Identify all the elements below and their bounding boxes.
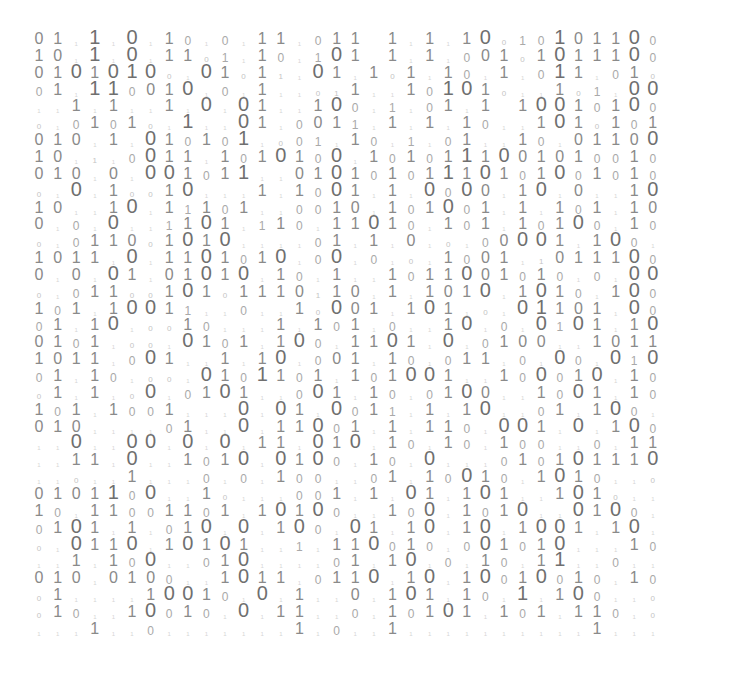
binary-digit: 0	[290, 468, 308, 485]
binary-digit: 0	[346, 199, 364, 216]
binary-digit: 0	[328, 350, 346, 367]
binary-digit: 0	[439, 131, 457, 148]
binary-digit: 0	[104, 114, 122, 131]
binary-digit: 1	[607, 30, 625, 47]
binary-digit: 1	[588, 401, 606, 418]
binary-digit: 0	[197, 519, 215, 536]
binary-digit: 1	[104, 131, 122, 148]
binary-digit: 1	[514, 586, 532, 603]
binary-digit: 0	[309, 451, 327, 468]
binary-digit: 1	[588, 199, 606, 216]
binary-digit: 1	[309, 316, 327, 333]
binary-digit: 1	[197, 485, 215, 502]
binary-digit: 0	[644, 131, 662, 148]
binary-digit: 0	[532, 333, 550, 350]
binary-digit: 0	[514, 148, 532, 165]
binary-digit: 1	[551, 232, 569, 249]
binary-digit: 0	[569, 316, 587, 333]
binary-digit: 1	[49, 165, 67, 182]
binary-digit: 1	[179, 502, 197, 519]
binary-digit: 0	[328, 316, 346, 333]
binary-digit: 1	[625, 384, 643, 401]
binary-digit: 0	[514, 333, 532, 350]
binary-digit: 1	[495, 165, 513, 182]
binary-digit: 1	[49, 316, 67, 333]
binary-digit: 1	[458, 283, 476, 300]
binary-digit: 1	[383, 30, 401, 47]
binary-digit: 1	[607, 131, 625, 148]
binary-digit: 1	[551, 283, 569, 300]
binary-digit: 0	[328, 418, 346, 435]
binary-digit: 1	[495, 64, 513, 81]
binary-digit: 0	[625, 114, 643, 131]
binary-digit: 1	[402, 333, 420, 350]
binary-digit: 0	[588, 367, 606, 384]
binary-digit: 1	[49, 131, 67, 148]
binary-row: 0101011110111101110101101110100110	[30, 215, 706, 232]
binary-digit: 1	[365, 232, 383, 249]
binary-digit: 1	[104, 232, 122, 249]
binary-digit: 1	[290, 586, 308, 603]
binary-digit: 1	[197, 283, 215, 300]
binary-digit: 0	[532, 434, 550, 451]
binary-digit: 0	[142, 165, 160, 182]
binary-digit: 1	[346, 131, 364, 148]
binary-digit: 0	[309, 114, 327, 131]
binary-digit: 1	[495, 249, 513, 266]
binary-digit: 1	[253, 249, 271, 266]
binary-digit: 1	[458, 401, 476, 418]
binary-digit: 0	[644, 316, 662, 333]
binary-digit: 0	[272, 502, 290, 519]
binary-digit: 1	[49, 367, 67, 384]
binary-digit: 1	[607, 519, 625, 536]
binary-digit: 1	[476, 81, 494, 98]
binary-digit: 1	[495, 603, 513, 620]
binary-digit: 1	[458, 350, 476, 367]
binary-digit: 0	[365, 165, 383, 182]
binary-digit: 0	[235, 300, 253, 317]
binary-digit: 0	[421, 148, 439, 165]
binary-digit: 1	[607, 418, 625, 435]
binary-digit: 1	[328, 199, 346, 216]
binary-digit: 1	[532, 603, 550, 620]
binary-digit: 1	[383, 367, 401, 384]
binary-digit: 0	[142, 300, 160, 317]
binary-digit: 1	[49, 569, 67, 586]
binary-digit: 0	[514, 232, 532, 249]
binary-digit: 1	[160, 283, 178, 300]
binary-digit: 1	[402, 519, 420, 536]
binary-digit: 1	[532, 536, 550, 553]
binary-digit: 1	[551, 586, 569, 603]
binary-digit: 0	[142, 81, 160, 98]
binary-digit: 0	[179, 81, 197, 98]
binary-digit: 0	[49, 47, 67, 64]
binary-digit: 0	[588, 434, 606, 451]
binary-digit: 0	[160, 165, 178, 182]
binary-digit: 1	[551, 485, 569, 502]
binary-digit: 1	[588, 30, 606, 47]
binary-digit: 1	[160, 97, 178, 114]
binary-digit: 0	[588, 148, 606, 165]
binary-digit: 1	[607, 47, 625, 64]
binary-digit: 0	[216, 30, 234, 47]
binary-digit: 1	[290, 620, 308, 637]
binary-digit: 0	[607, 64, 625, 81]
binary-digit: 1	[290, 536, 308, 553]
binary-digit: 0	[551, 367, 569, 384]
binary-digit: 0	[179, 434, 197, 451]
binary-digit: 0	[551, 165, 569, 182]
binary-digit: 1	[421, 199, 439, 216]
binary-digit: 1	[383, 199, 401, 216]
binary-digit: 0	[607, 552, 625, 569]
binary-digit: 0	[123, 199, 141, 216]
binary-digit: 0	[197, 451, 215, 468]
binary-digit: 1	[86, 485, 104, 502]
binary-digit: 1	[253, 215, 271, 232]
binary-digit: 1	[49, 81, 67, 98]
binary-digit: 1	[49, 384, 67, 401]
binary-row: 1111110111111111011111111111111111	[30, 620, 706, 637]
binary-digit: 1	[272, 620, 290, 641]
binary-digit: 1	[216, 64, 234, 81]
binary-digit: 0	[514, 536, 532, 553]
binary-digit: 0	[532, 367, 550, 384]
